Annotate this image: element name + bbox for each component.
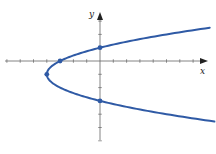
point-marker xyxy=(44,72,49,77)
axes: x y xyxy=(5,9,208,141)
y-axis-label: y xyxy=(88,9,95,19)
parabola-chart: x y xyxy=(0,0,216,154)
point-marker xyxy=(98,99,103,104)
y-axis-arrow-icon xyxy=(97,12,103,20)
parabola-curve xyxy=(47,28,215,122)
x-axis-arrow-icon xyxy=(200,58,208,64)
point-marker xyxy=(58,59,63,64)
point-marker xyxy=(98,45,103,50)
marked-points xyxy=(44,45,102,103)
x-axis-label: x xyxy=(200,66,205,76)
